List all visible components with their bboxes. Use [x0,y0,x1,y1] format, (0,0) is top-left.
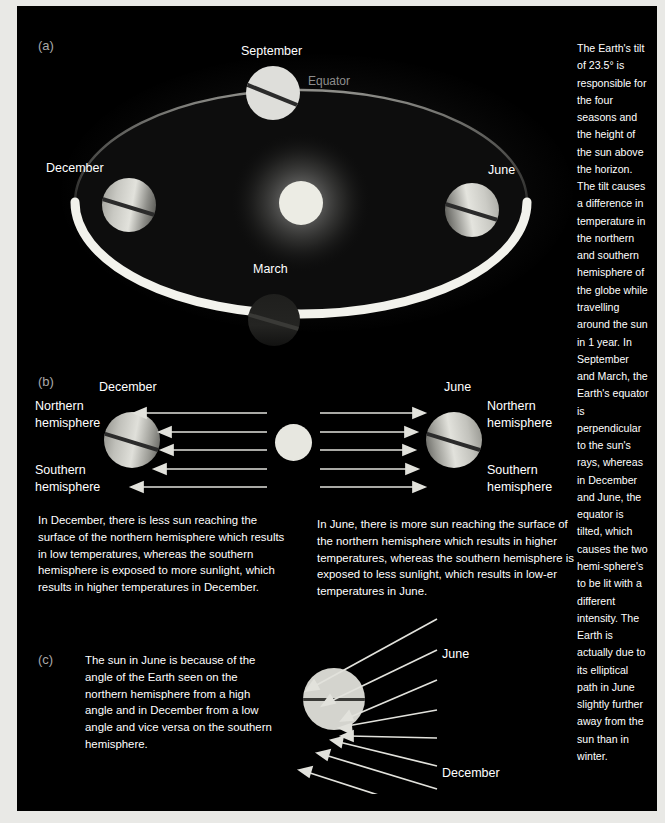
panel-a-orbit-diagram: (a) September Equator December June Marc… [17,6,657,356]
globe-june [445,183,499,237]
equator-line-march [248,311,300,333]
label-june: June [488,163,515,177]
equator-line-september [246,80,300,109]
sidebar-explanatory-text: The Earth's tilt of 23.5° is responsible… [577,40,649,765]
label-equator: Equator [308,74,350,88]
sun-center [279,181,323,225]
label-december: December [46,161,104,175]
equator-line-june [445,200,499,224]
globe-december [102,178,156,232]
label-september: September [241,44,302,58]
panel-b-rays-june [17,386,657,526]
figure-canvas: (a) September Equator December June Marc… [17,6,657,811]
orbit-path [17,6,657,356]
panel-a-id: (a) [38,38,54,53]
panel-b-left-caption: In December, there is less sun reaching … [38,512,290,596]
panel-c-label-december: December [442,766,500,780]
equator-line-december [102,195,156,219]
label-march: March [253,262,288,276]
globe-march [248,294,300,346]
panel-c-label-june: June [442,647,469,661]
panel-b-right-caption: In June, there is more sun reaching the … [317,516,579,600]
globe-september [246,66,300,120]
figure-page: (a) September Equator December June Marc… [0,0,665,823]
panel-c-rays [17,614,657,794]
